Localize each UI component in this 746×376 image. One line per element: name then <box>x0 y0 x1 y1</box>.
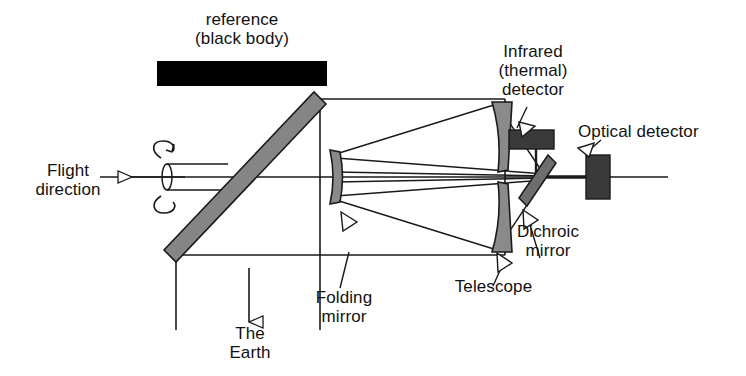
label-optical-detector: Optical detector <box>578 122 738 141</box>
leader-lines <box>340 107 601 288</box>
label-the-earth: The Earth <box>205 324 295 362</box>
infrared-detector <box>509 130 554 149</box>
label-folding-mirror: Folding mirror <box>296 288 392 326</box>
dichroic-mirror <box>519 155 556 206</box>
label-flight-direction: Flight direction <box>18 161 118 199</box>
optical-diagram: reference (black body) Flight direction … <box>0 0 746 376</box>
label-telescope: Telescope <box>441 277 546 296</box>
label-reference-black-body: reference (black body) <box>162 10 322 48</box>
label-dichroic-mirror: Dichroic mirror <box>502 222 594 260</box>
black-body-reference <box>157 61 327 86</box>
label-infrared-detector: Infrared (thermal) detector <box>478 42 588 99</box>
optical-detector <box>586 155 610 199</box>
